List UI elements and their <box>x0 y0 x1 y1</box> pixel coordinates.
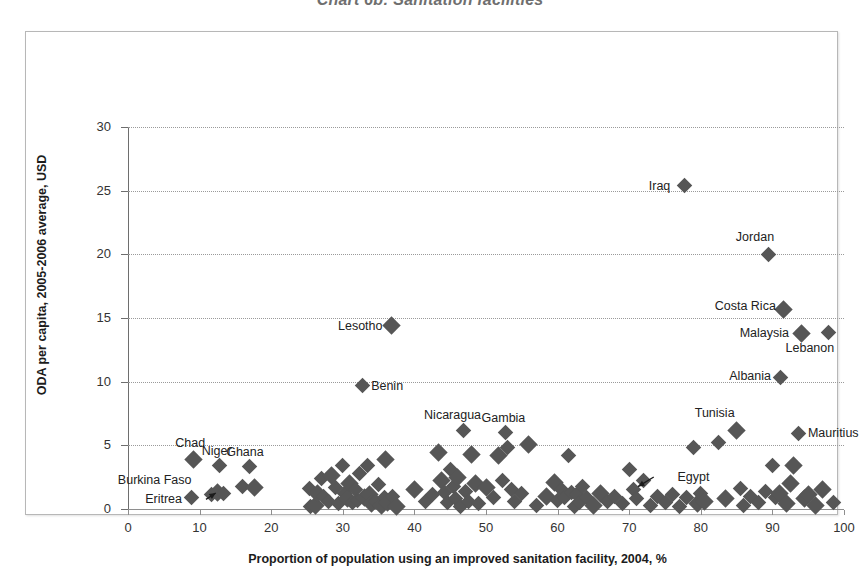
data-point <box>686 440 702 456</box>
plot-area: IraqJordanCosta RicaMalaysiaLebanonAlban… <box>128 127 844 509</box>
point-label-lesotho: Lesotho <box>338 319 382 332</box>
data-point <box>717 490 735 508</box>
y-tick-label-0: 0 <box>71 501 111 516</box>
y-tick-label-20: 20 <box>71 246 111 261</box>
x-tick-90 <box>772 510 773 515</box>
x-tick-70 <box>629 510 630 515</box>
x-tick-20 <box>271 510 272 515</box>
data-point <box>382 316 400 334</box>
x-tick-50 <box>486 510 487 515</box>
data-point <box>462 445 480 463</box>
data-point <box>820 324 836 340</box>
point-label-chad: Chad <box>175 437 205 450</box>
data-point <box>429 444 447 462</box>
data-point <box>377 450 395 468</box>
point-label-mauritius: Mauritius <box>808 427 859 440</box>
y-tick-label-15: 15 <box>71 310 111 325</box>
x-tick-label-20: 20 <box>251 520 291 535</box>
data-point <box>727 421 745 439</box>
data-point <box>765 458 781 474</box>
data-point <box>212 458 228 474</box>
x-tick-10 <box>200 510 201 515</box>
point-label-costa-rica: Costa Rica <box>715 300 776 313</box>
chart-title: Chart 6b: Sanitation facilities <box>0 0 860 9</box>
gridline-y-20 <box>128 254 844 255</box>
data-point <box>183 490 199 506</box>
gridline-y-15 <box>128 318 844 319</box>
data-point <box>791 426 807 442</box>
x-tick-label-50: 50 <box>466 520 506 535</box>
gridline-y-0 <box>128 509 844 510</box>
data-point <box>785 457 803 475</box>
x-tick-label-70: 70 <box>609 520 649 535</box>
point-label-tunisia: Tunisia <box>695 407 735 420</box>
x-tick-label-80: 80 <box>681 520 721 535</box>
egypt-arrow <box>632 471 660 493</box>
data-point <box>711 435 727 451</box>
data-point <box>245 478 263 496</box>
data-point <box>792 324 810 342</box>
x-axis-ticks: 0102030405060708090100 <box>128 510 844 540</box>
point-label-burkina-faso: Burkina Faso <box>118 474 192 487</box>
data-point <box>760 247 776 263</box>
x-tick-label-60: 60 <box>538 520 578 535</box>
data-point <box>775 300 793 318</box>
point-label-jordan: Jordan <box>736 231 774 244</box>
data-point <box>498 425 514 441</box>
point-label-gambia: Gambia <box>482 411 526 424</box>
point-label-eritrea: Eritrea <box>145 492 182 505</box>
x-tick-60 <box>558 510 559 515</box>
data-point <box>184 450 202 468</box>
data-point <box>520 435 538 453</box>
point-label-egypt: Egypt <box>677 471 709 484</box>
point-label-lebanon: Lebanon <box>786 342 835 355</box>
data-point <box>354 378 370 394</box>
data-point <box>242 459 258 475</box>
data-point <box>561 448 577 464</box>
x-tick-80 <box>701 510 702 515</box>
x-tick-30 <box>343 510 344 515</box>
chart-frame: ODA per capita, 2005-2006 average, USD P… <box>25 31 838 515</box>
y-tick-label-5: 5 <box>71 437 111 452</box>
data-point <box>455 422 471 438</box>
point-label-albania: Albania <box>729 370 771 383</box>
x-tick-0 <box>128 510 129 515</box>
data-point <box>773 370 789 386</box>
data-point <box>405 481 423 499</box>
point-label-benin: Benin <box>371 380 403 393</box>
y-tick-label-25: 25 <box>71 183 111 198</box>
x-tick-label-100: 100 <box>824 520 860 535</box>
x-tick-label-10: 10 <box>180 520 220 535</box>
x-tick-40 <box>414 510 415 515</box>
x-tick-label-0: 0 <box>108 520 148 535</box>
x-axis-label: Proportion of population using an improv… <box>51 552 860 566</box>
x-tick-label-40: 40 <box>394 520 434 535</box>
burkina-faso-arrow <box>200 487 222 505</box>
data-point <box>335 458 351 474</box>
point-label-ghana: Ghana <box>226 446 264 459</box>
x-tick-label-30: 30 <box>323 520 363 535</box>
y-tick-label-10: 10 <box>71 374 111 389</box>
point-label-nicaragua: Nicaragua <box>424 409 481 422</box>
y-tick-label-30: 30 <box>71 119 111 134</box>
gridline-y-30 <box>128 127 844 128</box>
point-label-malaysia: Malaysia <box>740 327 789 340</box>
y-axis-label: ODA per capita, 2005-2006 average, USD <box>35 60 49 490</box>
x-tick-100 <box>844 510 845 515</box>
point-label-iraq: Iraq <box>649 179 671 192</box>
gridline-y-25 <box>128 191 844 192</box>
x-tick-label-90: 90 <box>752 520 792 535</box>
